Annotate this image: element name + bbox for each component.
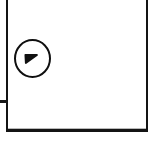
left-edge-tick — [0, 100, 7, 103]
figure-canvas: 7 Scanned line-art fragment — [0, 0, 156, 142]
bottom-scan-artifact-line — [8, 128, 146, 129]
circled-reference-marker[interactable]: 7 — [14, 39, 51, 78]
rotated-seven-glyph-icon — [16, 41, 49, 76]
figure-title: Scanned line-art fragment — [0, 0, 1, 1]
